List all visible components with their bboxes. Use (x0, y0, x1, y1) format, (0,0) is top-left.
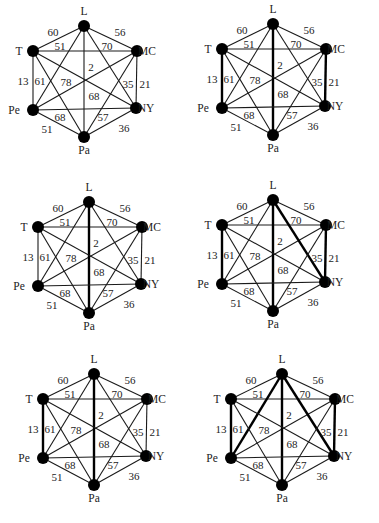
edge-weight-label: 61 (233, 423, 244, 435)
panel-6: 60515670213617835216868575136LTMCPeNYPa (0, 0, 379, 523)
edge-weight-label: 51 (240, 471, 251, 483)
edge-weight-label: 36 (317, 470, 329, 482)
vertex-label-pe: Pe (206, 452, 218, 464)
edge-weight-label: 56 (313, 374, 325, 386)
edge-weight-label: 60 (246, 374, 258, 386)
vertex-label-mc: MC (336, 393, 354, 405)
vertex-label-l: L (278, 353, 285, 365)
edge-weight-label: 57 (296, 459, 308, 471)
edge-weight-label: 2 (286, 409, 292, 421)
edge-weight-label: 78 (259, 424, 271, 436)
edge-weight-label: 21 (338, 426, 349, 438)
edge-weight-label: 51 (253, 388, 264, 400)
vertex-pa (276, 479, 288, 491)
edge-weight-label: 13 (216, 423, 228, 435)
vertex-pe (225, 452, 237, 464)
vertex-label-ny: NY (336, 450, 353, 462)
edge-mc-ny-selected (334, 399, 335, 456)
vertex-t (225, 393, 237, 405)
edge-weight-label: 68 (253, 459, 265, 471)
vertex-label-t: T (213, 393, 220, 405)
vertex-l (276, 368, 288, 380)
vertex-label-pa: Pa (276, 492, 288, 504)
edge-weight-label: 70 (300, 388, 312, 400)
edge-weight-label: 35 (321, 426, 333, 438)
edge-weight-label: 68 (287, 438, 299, 450)
